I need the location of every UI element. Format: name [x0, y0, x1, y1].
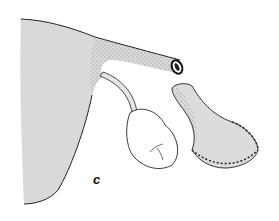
anatomical-illustration: c — [0, 0, 279, 221]
fimbriated-tube-segment — [172, 84, 258, 168]
panel-label: c — [93, 172, 100, 187]
ovary — [127, 109, 178, 168]
illustration-svg — [0, 0, 279, 221]
ovarian-ligament — [100, 72, 137, 112]
